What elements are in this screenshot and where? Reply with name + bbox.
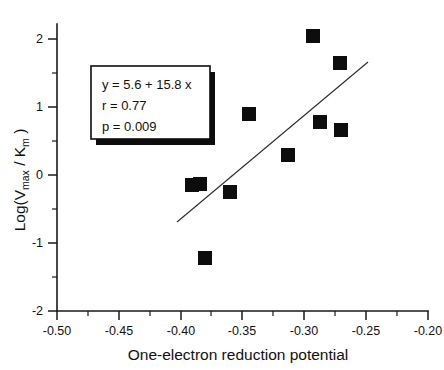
x-tick-label-3: -0.35: [228, 324, 257, 338]
y-axis-title-suffix: ): [11, 129, 28, 138]
legend-correlation: r = 0.77: [102, 98, 146, 113]
chart-figure: 2 1 0 -1 -2 -0.50 -0.45 -0.40 -0.35: [0, 0, 444, 370]
data-point: [313, 115, 327, 129]
y-tick-label-2: 2: [36, 32, 43, 46]
y-tick-label-minus1: -1: [32, 236, 43, 250]
x-tick-label-6: -0.20: [414, 324, 443, 338]
x-axis-title: One-electron reduction potential: [128, 346, 349, 363]
data-point: [334, 123, 348, 137]
scatter-plot: 2 1 0 -1 -2 -0.50 -0.45 -0.40 -0.35: [0, 0, 444, 370]
x-tick-label-2: -0.40: [167, 324, 196, 338]
y-axis-title-middle: / K: [11, 146, 28, 170]
data-point: [193, 177, 207, 191]
x-tick-label-0: -0.50: [43, 324, 72, 338]
y-tick-label-0: 0: [36, 168, 43, 182]
y-tick-label-minus2: -2: [32, 304, 43, 318]
svg-text:Log(Vmax / Km ): Log(Vmax / Km ): [11, 129, 31, 232]
x-tick-label-4: -0.30: [290, 324, 319, 338]
y-axis-title-prefix: Log(V: [11, 189, 28, 231]
legend-pvalue: p = 0.009: [102, 119, 157, 134]
data-point: [198, 251, 212, 265]
legend-equation: y = 5.6 + 15.8 x: [102, 77, 192, 92]
data-point: [223, 185, 237, 199]
x-tick-label-1: -0.45: [105, 324, 134, 338]
data-point: [333, 56, 347, 70]
data-point: [306, 29, 320, 43]
x-tick-label-5: -0.25: [352, 324, 381, 338]
y-axis-title: Log(Vmax / Km ): [11, 129, 31, 232]
x-axis-major-ticks: [57, 311, 428, 320]
y-axis-major-ticks: [48, 39, 57, 311]
y-tick-label-1: 1: [36, 100, 43, 114]
data-point: [242, 107, 256, 121]
data-point: [281, 148, 295, 162]
y-axis-title-sub-m: m: [19, 138, 31, 147]
statistics-legend-box: y = 5.6 + 15.8 x r = 0.77 p = 0.009: [91, 66, 215, 145]
y-axis-title-sub-max: max: [19, 169, 31, 190]
